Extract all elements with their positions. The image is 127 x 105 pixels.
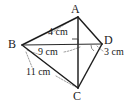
angle-arc-marker-d [91,45,94,51]
vertex-label-b: B [8,38,16,50]
edge-DC [78,44,102,88]
dimension-label-dc: 3 cm [104,47,124,57]
dimension-label-bd: 9 cm [38,47,58,57]
edge-AD [78,17,102,44]
geometry-figure: A B C D 4 cm 9 cm 11 cm 3 cm [0,0,127,105]
leader-line-bc [26,52,32,67]
edge-BD-diagonal [22,44,102,45]
leader-line-bc-lower [56,76,76,87]
vertex-label-a: A [71,3,80,15]
dimension-label-bc: 11 cm [26,67,50,77]
vertex-label-c: C [73,90,81,102]
vertex-label-d: D [104,34,113,46]
dimension-label-ab: 4 cm [48,27,68,37]
